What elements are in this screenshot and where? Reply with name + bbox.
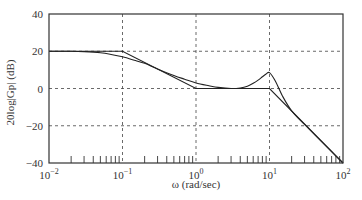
y-tick-label: −20 [26, 120, 44, 132]
x-minor-ticks [71, 156, 340, 163]
y-axis-title: 20log|Gp| (dB) [4, 59, 17, 125]
x-tick-label: 10−1 [113, 167, 133, 181]
x-tick-label: 10−2 [39, 167, 59, 181]
y-tick-label: 40 [32, 8, 44, 20]
x-axis-title: ω (rad/sec) [172, 178, 221, 191]
y-tick-label: 20 [32, 45, 44, 57]
x-tick-label: 102 [336, 167, 351, 181]
y-tick-label: 0 [38, 83, 44, 95]
y-tick-labels: 40200−20−40 [26, 8, 44, 169]
y-tick-label: −40 [26, 157, 44, 169]
x-tick-label: 101 [262, 167, 277, 181]
bode-magnitude-chart: 40200−20−40 10−210−1100101102 ω (rad/sec… [0, 0, 362, 200]
